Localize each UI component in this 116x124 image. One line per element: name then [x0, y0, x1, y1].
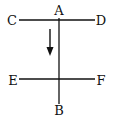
label-b: B: [54, 103, 64, 118]
label-d: D: [96, 13, 106, 28]
diagram-canvas: A C D E F B: [0, 0, 116, 124]
label-a: A: [53, 3, 64, 18]
label-f: F: [96, 73, 105, 88]
label-e: E: [8, 73, 18, 88]
arrow-down-icon: [47, 29, 54, 56]
label-c: C: [7, 13, 17, 28]
